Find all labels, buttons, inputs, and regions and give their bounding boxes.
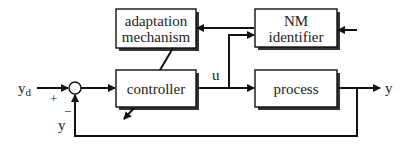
adaptation-mechanism-block: adaptation mechanism: [116, 9, 199, 51]
identifier-label-line1: NM: [284, 13, 308, 29]
controller-label: controller: [127, 81, 185, 97]
plus-sign: +: [50, 91, 57, 106]
output-label: y: [385, 80, 393, 96]
control-signal-label: u: [212, 67, 220, 83]
adaptation-label-line1: adaptation: [125, 13, 188, 29]
reference-label: yd: [18, 80, 32, 98]
feedback-label: y: [58, 117, 66, 133]
adaptive-control-diagram: adaptation mechanism NM identifier contr…: [0, 0, 405, 147]
process-block: process: [255, 70, 340, 110]
adaptation-link: [160, 48, 173, 70]
control-to-identifier-arrow: [229, 35, 254, 88]
summing-junction: [69, 82, 81, 94]
controller-block: controller: [116, 70, 199, 110]
identifier-label-line2: identifier: [269, 29, 324, 45]
process-label: process: [274, 81, 319, 97]
nm-identifier-block: NM identifier: [255, 9, 340, 50]
adaptation-label-line2: mechanism: [122, 29, 191, 45]
